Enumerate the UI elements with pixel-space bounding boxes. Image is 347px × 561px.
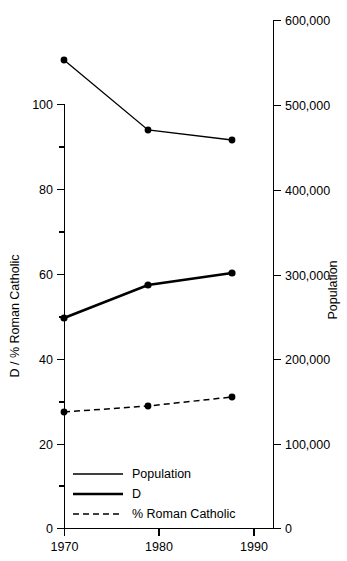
- left-ticklabel-80: 80: [39, 183, 53, 197]
- legend-label-d: D: [132, 487, 141, 501]
- series-d-point-1991: [228, 269, 235, 276]
- legend-item-d: D: [73, 487, 141, 501]
- series-roman-catholic-point-1971: [61, 409, 68, 416]
- series-roman-catholic: [61, 394, 236, 416]
- series-roman-catholic-point-1991: [229, 394, 236, 401]
- left-ticklabel-40: 40: [39, 353, 53, 367]
- legend-label-roman-catholic: % Roman Catholic: [132, 507, 236, 521]
- left-ticklabel-20: 20: [39, 438, 53, 452]
- right-ticklabel-100000: 100,000: [285, 438, 330, 452]
- series-population-point-1981: [145, 127, 152, 134]
- series-population-point-1991: [229, 137, 236, 144]
- x-axis: 1970 1980 1990: [51, 529, 274, 555]
- legend-item-population: Population: [73, 467, 191, 481]
- series-population: [61, 57, 236, 144]
- right-ticklabel-500000: 500,000: [285, 99, 330, 113]
- chart-figure: 100 80 60 40 20 0 D / % Roman Catholic 6…: [0, 0, 347, 561]
- right-ticklabel-400000: 400,000: [285, 184, 330, 198]
- chart-legend: Population D % Roman Catholic: [73, 467, 236, 521]
- x-ticklabel-1980: 1980: [145, 540, 173, 554]
- right-ticklabel-600000: 600,000: [285, 14, 330, 28]
- series-population-point-1971: [61, 57, 68, 64]
- series-d-point-1981: [144, 281, 151, 288]
- left-axis-title: D / % Roman Catholic: [8, 255, 22, 378]
- right-ticklabel-300000: 300,000: [285, 269, 330, 283]
- left-ticklabel-0: 0: [46, 522, 53, 536]
- series-d-line: [64, 273, 232, 318]
- series-roman-catholic-point-1981: [145, 403, 152, 410]
- right-ticklabel-200000: 200,000: [285, 353, 330, 367]
- left-axis: 100 80 60 40 20 0 D / % Roman Catholic: [8, 98, 65, 536]
- legend-label-population: Population: [132, 467, 191, 481]
- left-ticklabel-60: 60: [39, 268, 53, 282]
- series-d: [60, 269, 235, 321]
- x-ticklabel-1970: 1970: [51, 540, 79, 554]
- right-ticklabel-0: 0: [285, 522, 292, 536]
- legend-item-roman-catholic: % Roman Catholic: [73, 507, 236, 521]
- left-ticklabel-100: 100: [32, 98, 53, 112]
- right-axis-title: Population: [326, 260, 340, 319]
- line-chart-canvas: 100 80 60 40 20 0 D / % Roman Catholic 6…: [0, 0, 347, 561]
- x-ticklabel-1990: 1990: [240, 540, 268, 554]
- right-axis: 600,000 500,000 400,000 300,000 200,000 …: [274, 14, 341, 536]
- series-d-point-1971: [60, 314, 67, 321]
